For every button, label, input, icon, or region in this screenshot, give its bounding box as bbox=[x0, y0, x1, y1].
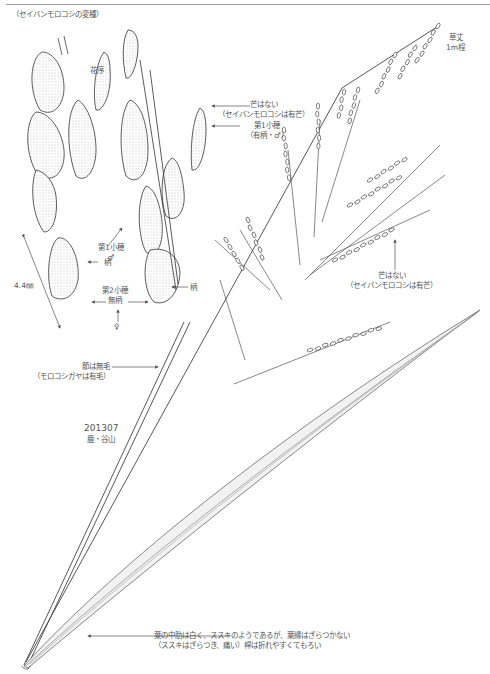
measurement-label: 4.4㎜ bbox=[14, 281, 33, 291]
spikelet-right bbox=[121, 30, 206, 303]
female-symbol: ♀ bbox=[114, 322, 120, 332]
panicle-branches bbox=[215, 100, 445, 384]
awnless-spikelet-note: 芒はない （セイバンモロコシは有芒） bbox=[218, 100, 309, 120]
plant-height-label: 草丈 1m程 bbox=[446, 33, 465, 53]
node-note: 節は無毛 （モロコシガヤは有毛） bbox=[26, 362, 110, 382]
leaf-note: 葉の中肋は白く、ススキのようであるが、葉縁はざらつかない （ススキはざらつき、痛… bbox=[154, 631, 350, 651]
figure-subtitle: （セイバンモロコシの変種） bbox=[12, 10, 103, 20]
stalk-label-right: 柄 bbox=[190, 283, 197, 293]
collection-info: 201307 鹿・谷山 bbox=[84, 423, 118, 445]
awnless-branch-note: 芒はない （セイバンモロコシは有芒） bbox=[346, 271, 437, 291]
stalk-label-left: 柄 bbox=[104, 258, 111, 268]
second-spikelet-note: 第2小穂 無柄 bbox=[102, 286, 128, 306]
panicle-spikelets bbox=[223, 22, 441, 353]
inflorescence-label: 花序 bbox=[90, 66, 104, 76]
first-spikelet-note: 第1小穂 （有柄・♂） bbox=[246, 121, 288, 141]
